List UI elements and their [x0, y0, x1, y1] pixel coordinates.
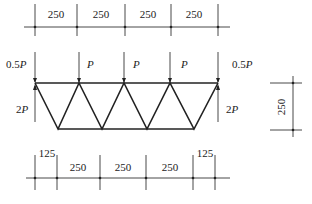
height-dimension: 250 — [270, 76, 302, 137]
load-label: P — [180, 58, 188, 70]
reaction-label-left: 2P — [16, 103, 29, 115]
dimension-tick — [170, 26, 173, 29]
bottom-dim-label: 250 — [115, 161, 132, 173]
dimension-tick — [76, 26, 79, 29]
top-dimension-chain: 250 250 250 250 — [24, 4, 230, 36]
dimension-tick — [192, 177, 195, 180]
bottom-dim-label: 125 — [39, 147, 56, 159]
top-dim-label: 250 — [140, 8, 157, 20]
bottom-dim-label: 250 — [70, 161, 87, 173]
load-label: P — [132, 58, 140, 70]
bottom-dim-label: 125 — [197, 147, 214, 159]
dimension-tick — [217, 26, 220, 29]
truss-diagram: 250 250 250 250 0.5P P P P 0.5P 2P 2P — [0, 0, 312, 204]
load-label-right: 0.5P — [232, 58, 253, 70]
dimension-tick — [124, 26, 127, 29]
bottom-dim-label: 250 — [162, 161, 179, 173]
reaction-label-right: 2P — [226, 103, 239, 115]
web-members — [35, 83, 218, 129]
top-dim-label: 250 — [48, 8, 65, 20]
load-label-left: 0.5P — [6, 58, 27, 70]
dimension-tick — [214, 177, 217, 180]
height-dim-label: 250 — [275, 98, 287, 115]
dimension-tick — [292, 129, 295, 132]
dimension-tick — [34, 177, 37, 180]
truss — [35, 83, 218, 129]
dimension-tick — [292, 82, 295, 85]
top-dim-label: 250 — [93, 8, 110, 20]
load-arrows — [33, 52, 220, 83]
dimension-tick — [34, 26, 37, 29]
dimension-tick — [145, 177, 148, 180]
bottom-dimension-chain: 125 250 250 250 125 — [26, 147, 230, 190]
load-label: P — [86, 58, 94, 70]
top-dim-label: 250 — [186, 8, 203, 20]
dimension-tick — [56, 177, 59, 180]
dimension-ticks — [34, 26, 295, 180]
dimension-tick — [99, 177, 102, 180]
